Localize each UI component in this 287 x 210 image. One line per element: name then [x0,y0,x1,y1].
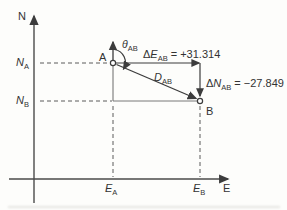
bearing-angle-label: θAB [122,38,138,50]
scan-artifact [8,206,280,208]
tick-label-na: NA [16,56,29,68]
distance-label: DAB [154,71,172,83]
tick-label-eb: EB [193,182,205,194]
tick-label-ea: EA [105,182,117,194]
point-b-marker [197,98,202,103]
north-axis-label: N [18,10,26,22]
coordinate-diagram: N E NA NB EA EB A B θAB DAB ΔEAB= +31.31… [0,0,287,210]
tick-label-nb: NB [16,94,29,106]
point-a-marker [110,60,115,65]
delta-n-equation: ΔNAB= −27.849 [206,77,284,89]
delta-e-equation: ΔEAB= +31.314 [143,48,220,60]
diagram-canvas [0,0,287,210]
point-a-label: A [99,51,106,63]
east-axis-label: E [223,182,230,194]
point-b-label: B [206,105,213,117]
